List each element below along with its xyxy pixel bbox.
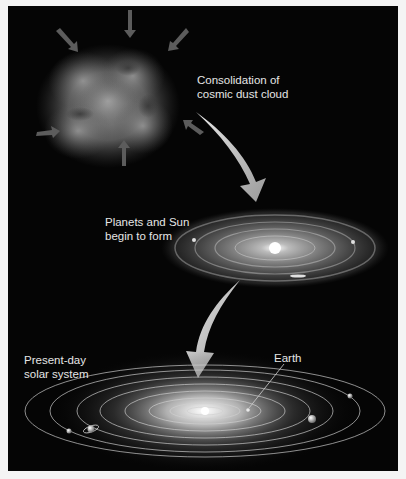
disk-label-line1: Planets and Sun	[105, 215, 189, 229]
dust-cloud	[36, 44, 180, 168]
dust-cloud-label-line2: cosmic dust cloud	[197, 87, 288, 101]
dust-cloud-label-line1: Consolidation of	[197, 73, 288, 87]
dust-cloud-label: Consolidation of cosmic dust cloud	[197, 73, 288, 101]
curved-arrow-1-icon	[196, 112, 266, 202]
solar-system-label-line1: Present-day	[24, 353, 89, 367]
protoplanetary-disk	[161, 208, 389, 288]
earth-planet	[246, 408, 250, 412]
diagram-panel: Consolidation of cosmic dust cloud Plane…	[8, 6, 398, 471]
earth-label: Earth	[274, 351, 302, 365]
disk-label-line2: begin to form	[105, 229, 189, 243]
solar-system-label-line2: solar system	[24, 367, 89, 381]
solar-system-label: Present-day solar system	[24, 353, 89, 381]
disk-label: Planets and Sun begin to form	[105, 215, 189, 243]
